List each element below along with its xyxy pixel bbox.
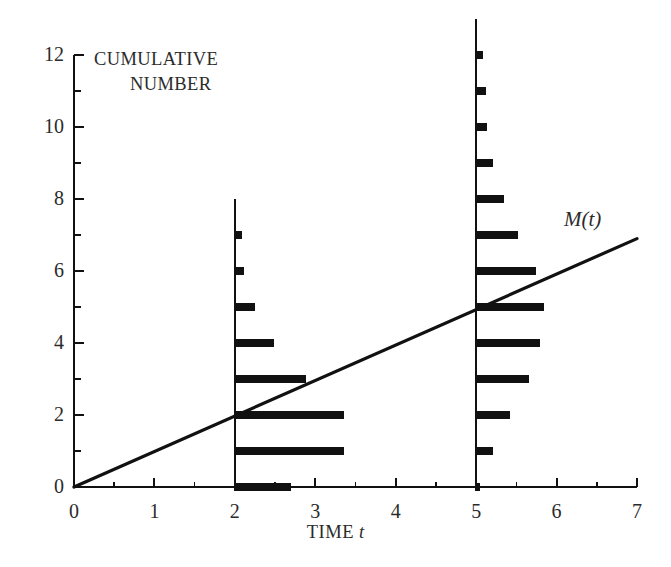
y-axis-caption: CUMULATIVE NUMBER: [92, 47, 302, 96]
y-tick-label: 12: [18, 44, 64, 64]
y-tick-label: 0: [18, 476, 64, 496]
curve-label-mt: M(t): [564, 207, 601, 232]
x-tick-label: 0: [49, 501, 99, 521]
stem-cluster-t5: [475, 19, 544, 487]
x-axis-title-text: TIME: [307, 522, 354, 542]
chart-figure: 024681012 01234567 CUMULATIVE NUMBER M(t…: [0, 0, 671, 567]
x-axis-title: TIME t: [0, 522, 671, 543]
x-tick-label: 4: [371, 501, 421, 521]
y-axis-caption-line-2: NUMBER: [92, 72, 302, 97]
line-path-mt: [74, 239, 637, 487]
x-tick-label: 6: [532, 501, 582, 521]
line-series-mt: [74, 239, 637, 487]
y-tick-label: 2: [18, 404, 64, 424]
x-tick-label: 1: [129, 501, 179, 521]
y-axis-caption-line-1: CUMULATIVE: [92, 47, 302, 72]
y-tick-label: 8: [18, 188, 64, 208]
x-tick-label: 7: [612, 501, 662, 521]
stem-cluster-t2: [234, 199, 344, 487]
y-tick-label: 4: [18, 332, 64, 352]
x-tick-label: 3: [290, 501, 340, 521]
y-tick-label: 6: [18, 260, 64, 280]
axes-group: [74, 55, 637, 487]
x-axis-title-variable: t: [359, 522, 364, 542]
x-tick-label: 2: [210, 501, 260, 521]
x-tick-label: 5: [451, 501, 501, 521]
y-tick-label: 10: [18, 116, 64, 136]
